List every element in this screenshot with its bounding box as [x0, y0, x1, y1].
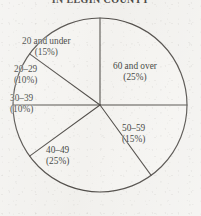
- pie-label-20-29-text: 20–29: [14, 64, 37, 74]
- pie-label-50-59-pct: (15%): [122, 134, 145, 145]
- pie-label-60-and-over: 60 and over (25%): [113, 61, 157, 82]
- pie-chart-figure: IN ELGIN COUNTY 20 and under (15%) 20–29…: [0, 0, 201, 216]
- pie-label-20-29: 20–29 (10%): [14, 64, 37, 85]
- pie-label-40-49-pct: (25%): [46, 156, 69, 167]
- pie-label-60-and-over-text: 60 and over: [113, 61, 157, 71]
- pie-label-20-and-under: 20 and under (15%): [22, 36, 71, 57]
- pie-label-50-59: 50–59 (15%): [122, 123, 145, 144]
- pie-label-60-and-over-pct: (25%): [113, 72, 157, 83]
- pie-label-40-49-text: 40–49: [46, 145, 69, 155]
- pie-label-30-39-text: 30–39: [10, 93, 33, 103]
- pie-label-30-39: 30–39 (10%): [10, 93, 33, 114]
- pie-label-40-49: 40–49 (25%): [46, 145, 69, 166]
- pie-label-30-39-pct: (10%): [10, 104, 33, 115]
- pie-label-20-and-under-pct: (15%): [22, 47, 71, 58]
- pie-label-20-29-pct: (10%): [14, 75, 37, 86]
- pie-label-50-59-text: 50–59: [122, 123, 145, 133]
- pie-label-20-and-under-text: 20 and under: [22, 36, 71, 46]
